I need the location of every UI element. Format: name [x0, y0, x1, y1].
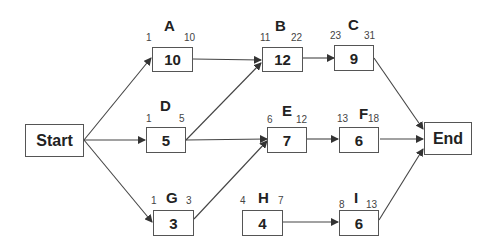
- edge-i-end: [379, 149, 423, 220]
- activity-g-es: 1: [151, 195, 157, 206]
- activity-c-label: C: [348, 16, 359, 33]
- activity-h-ef: 7: [278, 195, 284, 206]
- activity-b-node: 12: [262, 47, 303, 72]
- activity-e-es: 6: [267, 114, 273, 125]
- activity-b-label: B: [275, 17, 286, 34]
- activity-f-ef: 18: [368, 113, 379, 124]
- activity-e-label: E: [282, 102, 292, 119]
- activity-g-ef: 3: [186, 195, 192, 206]
- activity-e-node: 7: [267, 127, 307, 153]
- activity-c-es: 23: [330, 30, 341, 41]
- activity-a-ef: 10: [184, 32, 195, 43]
- edge-d-e: [186, 139, 267, 140]
- activity-c-node: 9: [334, 45, 374, 71]
- activity-f-label: F: [359, 105, 368, 122]
- activity-i-label: I: [354, 189, 358, 206]
- activity-d-ef: 5: [179, 113, 185, 124]
- end-node: End: [424, 122, 472, 155]
- activity-h-es: 4: [240, 195, 246, 206]
- activity-e-ef: 12: [296, 114, 307, 125]
- activity-a-label: A: [164, 17, 175, 34]
- activity-g-label: G: [166, 189, 178, 206]
- activity-f-node: 6: [339, 127, 379, 153]
- activity-c-ef: 31: [364, 30, 375, 41]
- activity-b-es: 11: [260, 32, 270, 43]
- activity-a-node: 10: [152, 47, 193, 72]
- edge-a-b: [193, 59, 261, 60]
- activity-f-es: 13: [337, 113, 348, 124]
- activity-d-node: 5: [146, 127, 186, 153]
- edge-d-b: [186, 63, 261, 140]
- activity-d-label: D: [160, 97, 171, 114]
- activity-i-node: 6: [339, 210, 379, 236]
- edge-g-e: [194, 141, 267, 219]
- activity-g-node: 3: [153, 210, 194, 236]
- edge-start-g: [84, 140, 152, 222]
- activity-h-label: H: [258, 189, 269, 206]
- activity-i-ef: 13: [366, 199, 377, 210]
- edge-c-end: [374, 58, 423, 129]
- activity-h-node: 4: [242, 210, 283, 236]
- activity-d-es: 1: [146, 113, 152, 124]
- edge-start-a: [84, 58, 151, 140]
- activity-i-es: 8: [339, 199, 345, 210]
- start-node: Start: [25, 124, 84, 157]
- activity-a-es: 1: [146, 32, 152, 43]
- activity-b-ef: 22: [291, 32, 302, 43]
